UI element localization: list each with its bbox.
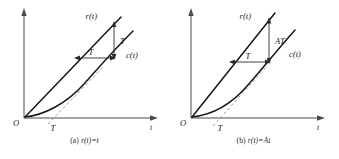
x-tick-label-a: T [51,123,57,133]
x-axis-label-b: t [317,123,320,132]
tangent-dashed-a [48,66,104,124]
caption-b-prefix: (b) [237,136,246,145]
origin-label-a: O [13,118,19,128]
caption-a-expression: r(t)=t [81,136,99,145]
response-curve-label-a: c(t) [126,50,138,60]
figure-two-panel-ramp-response: T T r(t) c(t) O T t [0,0,339,159]
response-curve-label-b: c(t) [289,49,301,59]
caption-a-prefix: (a) [70,136,79,145]
y-axis-arrowhead-b [188,8,193,16]
horizontal-dimension-label-b: T [246,51,252,61]
horizontal-dimension-label-a: T [89,47,95,57]
caption-a: (a) r(t)=t [0,136,169,145]
x-tick-label-b: T [218,123,224,133]
y-axis-arrowhead-a [21,8,26,16]
reference-line-label-b: r(t) [240,11,252,21]
reference-line-label-a: r(t) [86,11,98,21]
x-axis-arrowhead-a [150,115,158,120]
caption-b: (b) r(t)=At [169,136,338,145]
reference-line-a [25,17,121,117]
caption-b-expression: r(t)=At [248,136,271,145]
vertical-dimension-label-a: T [120,36,126,46]
x-axis-arrowhead-b [317,115,325,120]
origin-label-b: O [180,118,186,128]
x-axis-label-a: t [150,123,153,132]
horizontal-dimension-arrow-left-a [74,56,80,61]
vertical-dimension-label-b: AT [274,36,286,46]
reference-line-b [192,13,275,117]
horizontal-dimension-arrow-left-b [229,60,235,65]
response-curve-a [25,31,133,117]
tangent-dashed-b [213,66,267,126]
